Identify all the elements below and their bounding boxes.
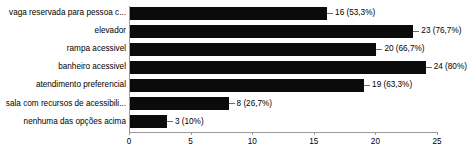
bar-chart: vaga reservada para pessoa c...16 (53,3%…	[0, 0, 472, 160]
x-axis-tick	[314, 132, 315, 135]
bar-row: rampa acessivel20 (66,7%)	[0, 40, 472, 58]
bar-group: 20 (66,7%)	[130, 40, 424, 58]
bar	[130, 61, 426, 74]
bar-group: 8 (26,7%)	[130, 95, 272, 113]
category-label: banheiro acessivel	[0, 62, 126, 72]
data-label: 16 (53,3%)	[333, 8, 375, 18]
x-axis-tick-label: 25	[422, 137, 452, 147]
x-axis-tick-label: 20	[360, 137, 390, 147]
category-label: atendimento preferencial	[0, 80, 126, 90]
category-label: nenhuma das opções acima	[0, 117, 126, 127]
x-axis-tick	[375, 132, 376, 135]
x-axis-tick	[252, 132, 253, 135]
x-axis-tick	[191, 132, 192, 135]
bar	[130, 25, 413, 38]
bar-row: sala com recursos de acessibili...8 (26,…	[0, 95, 472, 113]
x-axis-tick-label: 15	[299, 137, 329, 147]
data-label: 24 (80%)	[432, 62, 467, 72]
category-label: elevador	[0, 26, 126, 36]
data-label: 8 (26,7%)	[235, 99, 273, 109]
bar-row: vaga reservada para pessoa c...16 (53,3%…	[0, 4, 472, 22]
bar	[130, 79, 364, 92]
bar-group: 23 (76,7%)	[130, 22, 461, 40]
x-axis-tick	[129, 132, 130, 135]
data-label: 20 (66,7%)	[382, 44, 424, 54]
category-label: sala com recursos de acessibili...	[0, 99, 126, 109]
bar	[130, 7, 327, 20]
x-axis-tick	[437, 132, 438, 135]
bar-row: atendimento preferencial19 (63,3%)	[0, 76, 472, 94]
data-label: 3 (10%)	[173, 117, 204, 127]
bar	[130, 97, 229, 110]
bar-group: 16 (53,3%)	[130, 4, 375, 22]
bar-row: banheiro acessivel24 (80%)	[0, 58, 472, 76]
bar-row: nenhuma das opções acima3 (10%)	[0, 113, 472, 131]
bar	[130, 43, 376, 56]
category-label: vaga reservada para pessoa c...	[0, 8, 126, 18]
bar-group: 19 (63,3%)	[130, 76, 412, 94]
bar-group: 3 (10%)	[130, 113, 204, 131]
bar	[130, 115, 167, 128]
x-axis-tick-label: 0	[114, 137, 144, 147]
x-axis-line	[129, 132, 437, 133]
x-axis-tick-label: 10	[237, 137, 267, 147]
data-label: 23 (76,7%)	[419, 26, 461, 36]
data-label: 19 (63,3%)	[370, 80, 412, 90]
bar-group: 24 (80%)	[130, 58, 467, 76]
category-label: rampa acessivel	[0, 44, 126, 54]
x-axis-tick-label: 5	[176, 137, 206, 147]
bar-row: elevador23 (76,7%)	[0, 22, 472, 40]
